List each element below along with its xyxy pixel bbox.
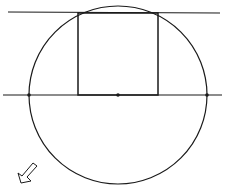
left-intersection-point xyxy=(27,93,31,97)
diagram-canvas xyxy=(0,0,225,194)
center-point xyxy=(116,93,120,97)
geometry-diagram xyxy=(0,0,225,194)
inscribed-square xyxy=(78,13,158,95)
right-intersection-point xyxy=(205,93,209,97)
arrow-down-left-icon xyxy=(18,163,37,183)
